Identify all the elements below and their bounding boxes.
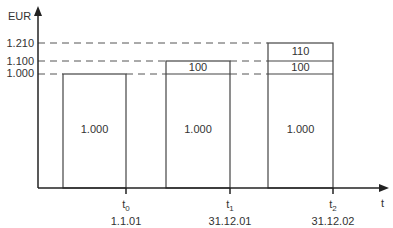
bar-t1-base-label: 1.000 <box>166 123 230 135</box>
x-tick-t1: t1 31.12.01 <box>195 198 265 228</box>
y-tick-1000: 1.000 <box>0 67 34 79</box>
x-axis-arrow-icon <box>379 184 389 192</box>
bar-t2-interest1-label: 100 <box>268 61 333 73</box>
bar-t1-interest-label: 100 <box>166 61 230 73</box>
chart-canvas <box>0 0 393 228</box>
bar-t2-interest2-label: 110 <box>268 45 333 57</box>
y-axis-arrow-icon <box>34 6 42 16</box>
reference-lines <box>38 43 268 74</box>
y-tick-1100: 1.100 <box>0 55 34 67</box>
y-axis-label: EUR <box>8 10 31 22</box>
bar-t2-base-label: 1.000 <box>268 123 333 135</box>
x-tick-t0: t0 1.1.01 <box>91 198 161 228</box>
bar-t0-base-label: 1.000 <box>63 123 126 135</box>
y-tick-1210: 1.210 <box>0 37 34 49</box>
x-axis-label: t <box>381 197 384 209</box>
x-tick-t2: t2 31.12.02 <box>298 198 368 228</box>
